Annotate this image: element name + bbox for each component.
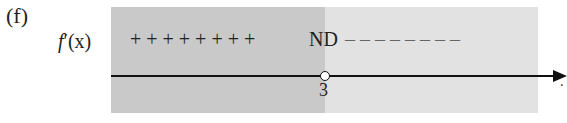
argument: (x) <box>68 30 91 52</box>
not-defined-marker: ND <box>309 28 338 51</box>
part-label: (f) <box>6 3 28 29</box>
axis-end-label: . <box>560 74 564 90</box>
left-region <box>111 7 325 113</box>
positive-signs: + + + + + + + + <box>130 28 255 51</box>
right-region <box>325 7 538 113</box>
derivative-label: f′(x) <box>58 30 91 53</box>
critical-point-label: 3 <box>319 80 328 101</box>
number-line-axis <box>111 75 556 77</box>
negative-signs: – – – – – – – – <box>345 28 460 51</box>
